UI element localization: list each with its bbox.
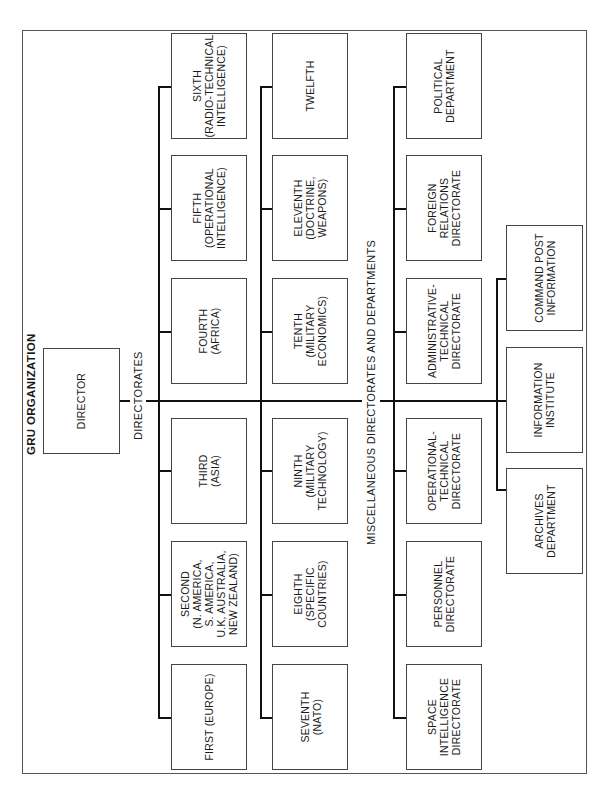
directorate-box-ninth: NINTH (MILITARY TECHNOLOGY) <box>272 418 348 524</box>
rail-misc-2 <box>496 278 498 490</box>
branch <box>158 594 171 596</box>
rail-directorates-1 <box>158 86 160 718</box>
box-label: ELEVENTH (DOCTRINE, WEAPONS) <box>292 176 328 239</box>
box-label: INFORMATION INSTITUTE <box>532 363 556 438</box>
directorate-box-eleventh: ELEVENTH (DOCTRINE, WEAPONS) <box>272 155 348 261</box>
directorate-box-tenth: TENTH (MILITARY ECONOMICS) <box>272 278 348 384</box>
box-label: TWELFTH <box>304 61 316 112</box>
box-label: FIFTH (OPERATIONAL INTELLIGENCE) <box>191 167 227 249</box>
box-label: PERSONNEL DIRECTORATE <box>432 556 456 633</box>
box-label: ADMINISTRATIVE- TECHNICAL DIRECTORATE <box>426 284 462 378</box>
misc-box-foreign-relations: FOREIGN RELATIONS DIRECTORATE <box>406 155 482 261</box>
misc-box-archives: ARCHIVES DEPARTMENT <box>506 468 583 574</box>
director-box: DIRECTOR <box>43 348 120 454</box>
branch <box>496 489 506 491</box>
branch <box>393 717 406 719</box>
branch <box>260 717 272 719</box>
misc-box-political: POLITICAL DEPARTMENT <box>406 33 482 139</box>
branch <box>260 331 272 333</box>
box-label: NINTH (MILITARY TECHNOLOGY) <box>292 431 328 510</box>
box-label: SPACE INTELLIGENCE DIRECTORATE <box>426 678 462 756</box>
misc-box-information-institute: INFORMATION INSTITUTE <box>506 347 583 453</box>
box-label: SECOND (N. AMERICA, S. AMERICA, U.K, AUS… <box>179 550 239 637</box>
directorate-box-eighth: EIGHTH (SPECIFIC COUNTRIES) <box>272 541 348 647</box>
branch <box>158 717 171 719</box>
branch <box>158 208 171 210</box>
branch <box>393 86 406 88</box>
spine-main-1 <box>146 400 362 402</box>
branch <box>260 86 272 88</box>
branch <box>393 208 406 210</box>
box-label: FOREIGN RELATIONS DIRECTORATE <box>426 170 462 247</box>
directorate-box-twelfth: TWELFTH <box>272 33 348 139</box>
box-label: FOURTH (AFRICA) <box>197 307 221 354</box>
branch <box>393 594 406 596</box>
branch <box>158 331 171 333</box>
directorate-box-seventh: SEVENTH (NATO) <box>272 664 348 770</box>
directorate-box-fifth: FIFTH (OPERATIONAL INTELLIGENCE) <box>171 155 247 261</box>
box-label: EIGHTH (SPECIFIC COUNTRIES) <box>292 560 328 627</box>
box-label: FIRST (EUROPE) <box>203 673 215 760</box>
branch <box>496 400 506 402</box>
box-label: ARCHIVES DEPARTMENT <box>533 484 557 557</box>
box-label: OPERATIONAL- TECHNICAL DIRECTORATE <box>426 431 462 511</box>
misc-box-operational-technical: OPERATIONAL- TECHNICAL DIRECTORATE <box>406 418 482 524</box>
rail-directorates-2 <box>260 86 262 718</box>
misc-box-command-post-information: COMMAND POST INFORMATION <box>506 225 583 331</box>
branch <box>260 208 272 210</box>
directorate-box-sixth: SIXTH (RADIO-TECHNICAL INTELLIGENCE) <box>171 33 247 139</box>
directorate-box-fourth: FOURTH (AFRICA) <box>171 278 247 384</box>
spine-main-2 <box>380 400 501 402</box>
box-label: COMMAND POST INFORMATION <box>533 233 557 322</box>
misc-box-space-intelligence: SPACE INTELLIGENCE DIRECTORATE <box>406 664 482 770</box>
directorate-box-second: SECOND (N. AMERICA, S. AMERICA, U.K, AUS… <box>171 541 247 647</box>
box-label: THIRD (ASIA) <box>197 454 221 487</box>
rail-misc-1 <box>393 86 395 718</box>
misc-box-personnel: PERSONNEL DIRECTORATE <box>406 541 482 647</box>
branch <box>158 470 171 472</box>
directorate-box-third: THIRD (ASIA) <box>171 418 247 524</box>
branch <box>260 594 272 596</box>
spine-director-to-labels <box>120 400 130 402</box>
box-label: SEVENTH (NATO) <box>298 692 322 743</box>
branch <box>260 470 272 472</box>
branch <box>496 278 506 280</box>
box-label: POLITICAL DEPARTMENT <box>432 49 456 122</box>
misc-section-label: MISCELLANEOUS DIRECTORATES AND DEPARTMEN… <box>365 240 377 545</box>
directorates-label: DIRECTORATES <box>132 351 144 440</box>
director-label: DIRECTOR <box>76 373 88 429</box>
branch <box>393 470 406 472</box>
box-label: SIXTH (RADIO-TECHNICAL INTELLIGENCE) <box>191 35 227 138</box>
branch <box>158 86 171 88</box>
box-label: TENTH (MILITARY ECONOMICS) <box>292 296 328 366</box>
branch <box>393 331 406 333</box>
misc-box-administrative-technical: ADMINISTRATIVE- TECHNICAL DIRECTORATE <box>406 278 482 384</box>
chart-title: GRU ORGANIZATION <box>25 334 37 456</box>
directorate-box-first: FIRST (EUROPE) <box>171 664 247 770</box>
